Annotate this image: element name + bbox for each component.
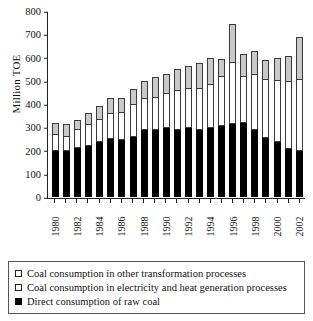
bar-segment-electricity-heat [141, 99, 148, 129]
bar-segment-raw-coal [141, 130, 148, 197]
bar-segment-electricity-heat [118, 113, 125, 140]
bar-segment-other-transformation [96, 106, 103, 120]
y-axis-tick-mark [44, 81, 48, 82]
bar-column [141, 12, 148, 197]
tick-mark [254, 199, 255, 203]
y-axis-tick-label: 800 [25, 7, 44, 18]
bar-segment-raw-coal [107, 139, 114, 197]
x-axis-tick [140, 199, 147, 203]
y-axis-tick-mark [44, 58, 48, 59]
y-axis-tick-label: 600 [25, 53, 44, 64]
bar-segment-raw-coal [285, 149, 292, 197]
x-axis-tick-label: 1988 [138, 217, 149, 237]
x-axis-tick [62, 199, 69, 203]
x-axis-label-slot [107, 204, 114, 254]
y-axis-tick-label: 200 [25, 146, 44, 157]
bar-segment-raw-coal [251, 130, 258, 197]
bar-segment-electricity-heat [207, 85, 214, 128]
x-axis-label-slot: 1986 [118, 204, 125, 254]
bar-column [174, 12, 181, 197]
y-axis-tick: 700 [25, 30, 48, 41]
bar-segment-other-transformation [274, 58, 281, 81]
x-axis-tick-label: 1994 [205, 217, 216, 237]
bar-segment-electricity-heat [240, 77, 247, 122]
tick-mark [99, 199, 100, 203]
x-axis: 1980198219841986198819901992199419961998… [47, 199, 305, 255]
bar-segment-raw-coal [218, 126, 225, 197]
bar-segment-raw-coal [274, 142, 281, 197]
tick-mark [299, 199, 300, 203]
x-axis-label-slot [240, 204, 247, 254]
bar-column [163, 12, 170, 197]
x-axis-tick-label: 1996 [227, 217, 238, 237]
bar-column [196, 12, 203, 197]
bar-column [229, 12, 236, 197]
bar-segment-electricity-heat [185, 89, 192, 129]
bar-segment-other-transformation [240, 54, 247, 77]
bar-segment-other-transformation [218, 59, 225, 78]
x-axis-label-slot [218, 204, 225, 254]
bar-column [240, 12, 247, 197]
y-axis-tick: 200 [25, 146, 48, 157]
bar-segment-other-transformation [262, 60, 269, 80]
x-axis-tick-label: 1990 [160, 217, 171, 237]
bar-segment-raw-coal [207, 128, 214, 197]
bar-column [74, 12, 81, 197]
y-axis-tick-mark [44, 12, 48, 13]
tick-mark [87, 199, 88, 203]
bar-column [207, 12, 214, 197]
x-axis-tick [285, 199, 292, 203]
bar-segment-raw-coal [118, 140, 125, 197]
legend-item: Direct consumption of raw coal [15, 295, 299, 308]
x-axis-label-slot: 1994 [207, 204, 214, 254]
tick-mark [288, 199, 289, 203]
x-axis-tick [185, 199, 192, 203]
legend-swatch-raw-coal-icon [15, 298, 22, 305]
legend-label: Coal consumption in other transformation… [27, 267, 246, 280]
x-axis-label-slot [84, 204, 91, 254]
bar-segment-other-transformation [63, 124, 70, 137]
bar-segment-raw-coal [163, 128, 170, 197]
bar-segment-raw-coal [63, 151, 70, 198]
legend-item: Coal consumption in other transformation… [15, 267, 299, 280]
tick-mark [176, 199, 177, 203]
y-axis-tick-label: 700 [25, 30, 44, 41]
x-axis-tick [240, 199, 247, 203]
legend-swatch-other-transformation-icon [15, 270, 22, 277]
x-axis-tick [51, 199, 58, 203]
tick-mark [110, 199, 111, 203]
bar-segment-electricity-heat [218, 77, 225, 126]
y-axis-tick-mark [44, 35, 48, 36]
tick-mark [132, 199, 133, 203]
bar-segment-electricity-heat [296, 80, 303, 151]
bar-segment-other-transformation [118, 98, 125, 113]
x-axis-tick [84, 199, 91, 203]
tick-mark [265, 199, 266, 203]
tick-mark [188, 199, 189, 203]
bar-segment-raw-coal [174, 130, 181, 197]
bar-segment-electricity-heat [262, 80, 269, 138]
x-axis-tick [218, 199, 225, 203]
chart-figure: Million TOE 0100200300400500600700800 19… [0, 0, 313, 321]
bar-segment-raw-coal [296, 151, 303, 198]
x-axis-label-slot: 1996 [229, 204, 236, 254]
bar-segment-electricity-heat [74, 130, 81, 149]
x-axis-tick [229, 199, 236, 203]
bar-segment-raw-coal [74, 148, 81, 197]
tick-mark [165, 199, 166, 203]
x-axis-tick-label: 1998 [249, 217, 260, 237]
legend-label: Coal consumption in electricity and heat… [27, 281, 287, 294]
bar-segment-raw-coal [52, 151, 59, 198]
x-axis-label-slot: 1980 [51, 204, 58, 254]
bar-segment-other-transformation [52, 123, 59, 136]
tick-mark [54, 199, 55, 203]
x-axis-tick-label: 2002 [294, 217, 305, 237]
x-axis-tick-marks [48, 199, 305, 203]
y-axis-tick-label: 500 [25, 77, 44, 88]
bar-segment-electricity-heat [174, 91, 181, 129]
y-axis-tick-mark [44, 105, 48, 106]
y-axis-tick-mark [44, 151, 48, 152]
bar-segment-other-transformation [107, 98, 114, 114]
bar-segment-other-transformation [251, 51, 258, 75]
bar-segment-raw-coal [196, 130, 203, 197]
